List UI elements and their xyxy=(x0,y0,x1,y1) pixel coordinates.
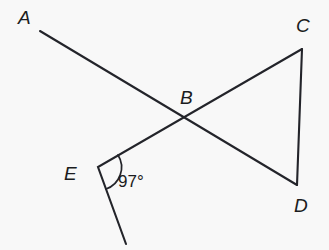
vertex-label-D: D xyxy=(294,195,308,216)
vertex-label-C: C xyxy=(296,15,310,36)
geometry-figure-canvas: A B C D E 97° xyxy=(0,0,329,250)
vertex-label-B: B xyxy=(180,87,193,108)
vertex-label-A: A xyxy=(17,7,31,28)
geometry-svg: A B C D E 97° xyxy=(0,0,329,250)
segment-C-E-extended xyxy=(98,49,302,244)
vertex-label-E: E xyxy=(64,163,77,184)
angle-measure-label: 97° xyxy=(118,172,144,191)
segment-A-D xyxy=(40,31,297,185)
segment-C-D xyxy=(297,49,302,185)
